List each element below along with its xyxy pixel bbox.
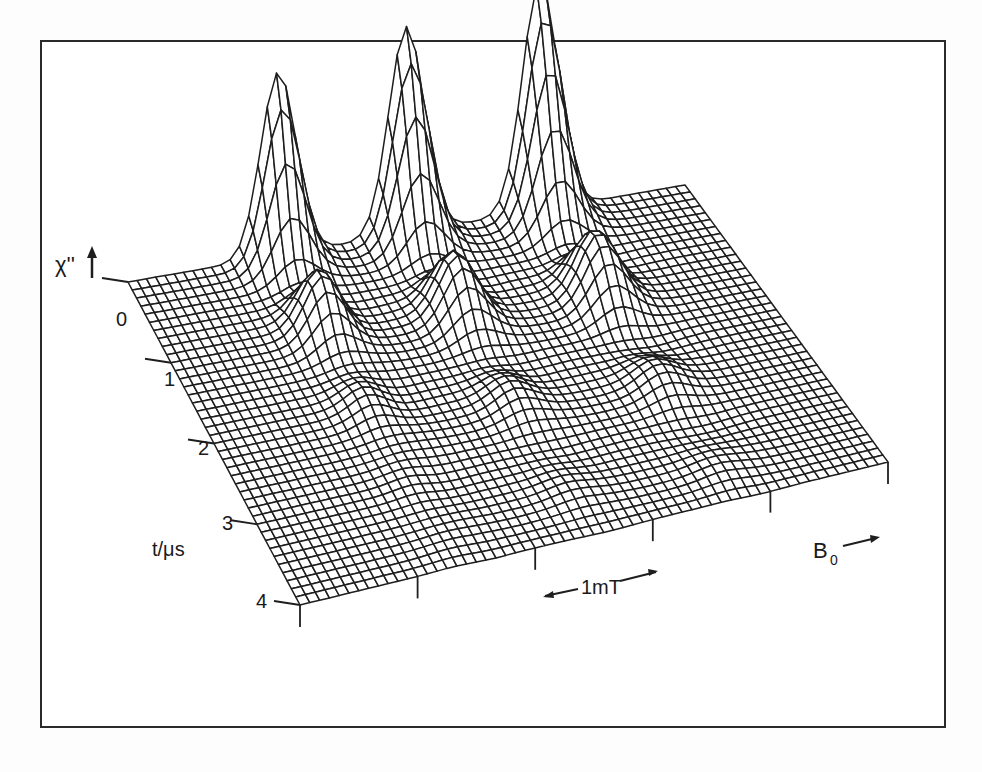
- z-axis-arrowhead-icon: [87, 246, 97, 258]
- z-axis-text: χ'': [55, 252, 75, 277]
- b-axis-text: B: [813, 538, 828, 563]
- t-tick-0: 0: [116, 308, 127, 330]
- z-axis-label: χ'': [55, 246, 97, 278]
- t-tick-3: 3: [222, 512, 233, 534]
- t-axis-title: t/μs: [152, 538, 185, 560]
- scale-bar-label: 1mT: [581, 576, 621, 598]
- b-axis-label: B 0: [813, 535, 880, 568]
- scale-bar-left-arrowhead-icon: [543, 591, 554, 598]
- t-axis-tick-mark: [102, 278, 128, 282]
- t-tick-4: 4: [256, 590, 267, 612]
- surface-plot: χ'' t/μs B 0 1mT 0 1 2 3 4: [0, 0, 982, 772]
- t-axis-tick-mark: [274, 601, 300, 605]
- b-axis-arrow-icon: [843, 539, 872, 546]
- t-axis-tick-mark: [145, 359, 171, 363]
- scale-bar: 1mT: [543, 569, 658, 598]
- b-axis-subscript: 0: [830, 552, 838, 568]
- t-axis-tick-mark: [231, 520, 257, 524]
- t-tick-1: 1: [164, 368, 175, 390]
- scale-bar-right-arrowhead-icon: [648, 569, 658, 576]
- wireframe-mesh: [128, 0, 888, 605]
- t-tick-2: 2: [198, 437, 209, 459]
- b-axis-arrowhead-icon: [870, 535, 880, 543]
